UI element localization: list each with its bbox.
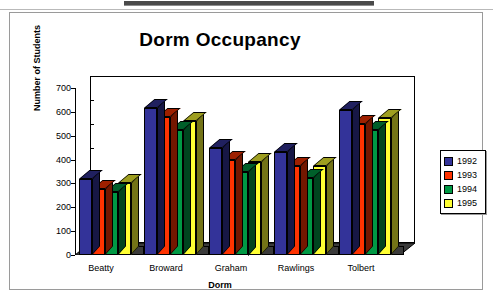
legend-swatch-icon [444,157,453,166]
y-axis-tick-label: 300 [41,179,71,188]
bar-broward-1992 [144,108,157,255]
legend-item-1995: 1995 [444,196,482,210]
chart-title: Dorm Occupancy [10,29,430,51]
bar-side-face [391,109,399,255]
bar-front-face [274,152,287,255]
bar-graham-1992 [209,148,222,255]
y-axis-tick-mark [71,160,75,161]
y-axis-tick-mark [71,207,75,208]
y-axis-tick-label: 200 [41,203,71,212]
bar-front-face [339,110,352,255]
y-axis-title: Number of Students [32,25,42,111]
x-axis-title: Dorm [10,280,430,290]
bar-side-face [378,122,386,255]
bar-side-face [248,163,256,255]
legend-label: 1993 [457,171,477,180]
x-axis-label-beatty: Beatty [66,263,136,273]
y-axis-tick-mark [71,136,75,137]
legend-item-1992: 1992 [444,154,482,168]
bar-side-face [261,154,269,255]
y-axis-tick-mark [71,255,75,256]
y-axis-tick-mark-inner [90,148,94,149]
y-axis-tick-label: 600 [41,108,71,117]
legend-label: 1992 [457,157,477,166]
chart-legend: 1992199319941995 [440,150,486,214]
bar-side-face [157,99,165,255]
x-axis-label-tolbert: Tolbert [326,263,396,273]
bar-side-face [313,169,321,255]
bar-side-face [92,170,100,255]
x-axis-label-graham: Graham [196,263,266,273]
x-axis-label-broward: Broward [131,263,201,273]
top-edge-artifact [124,1,374,6]
y-axis-tick-label: 0 [41,251,71,260]
bar-side-face [170,108,178,255]
bar-side-face [196,112,204,255]
bar-side-face [105,181,113,255]
legend-label: 1995 [457,199,477,208]
legend-swatch-icon [444,185,453,194]
chart-container: Dorm Occupancy Number of Students 010020… [9,12,483,290]
bar-side-face [300,157,308,255]
bar-front-face [144,108,157,255]
y-axis-tick-mark-inner [90,76,94,77]
legend-swatch-icon [444,199,453,208]
y-axis-tick-mark-inner [90,124,94,125]
y-axis-tick-mark [71,231,75,232]
legend-swatch-icon [444,171,453,180]
legend-item-1993: 1993 [444,168,482,182]
y-axis-tick-mark [71,112,75,113]
bar-side-face [365,115,373,255]
bar-front-face [79,179,92,255]
y-axis-tick-label: 500 [41,132,71,141]
bar-side-face [352,101,360,255]
bar-side-face [235,151,243,255]
x-axis-label-rawlings: Rawlings [261,263,331,273]
bar-rawlings-1992 [274,152,287,255]
top-divider-rule [0,9,493,10]
legend-label: 1994 [457,185,477,194]
bar-side-face [287,143,295,255]
y-axis-tick-label: 700 [41,84,71,93]
y-axis-tick-label: 100 [41,227,71,236]
bar-side-face [183,122,191,255]
y-axis-tick-mark-inner [90,100,94,101]
bar-side-face [222,139,230,255]
y-axis-tick-label: 400 [41,156,71,165]
bar-side-face [326,157,334,255]
y-axis-tick-mark [71,88,75,89]
legend-item-1994: 1994 [444,182,482,196]
bar-tolbert-1992 [339,110,352,255]
y-axis-tick-mark [71,183,75,184]
bar-front-face [209,148,222,255]
plot-area: 0100200300400500600700 [75,76,415,255]
bar-side-face [118,183,126,255]
y-axis-line [75,88,76,255]
bar-beatty-1992 [79,179,92,255]
bar-side-face [131,175,139,255]
